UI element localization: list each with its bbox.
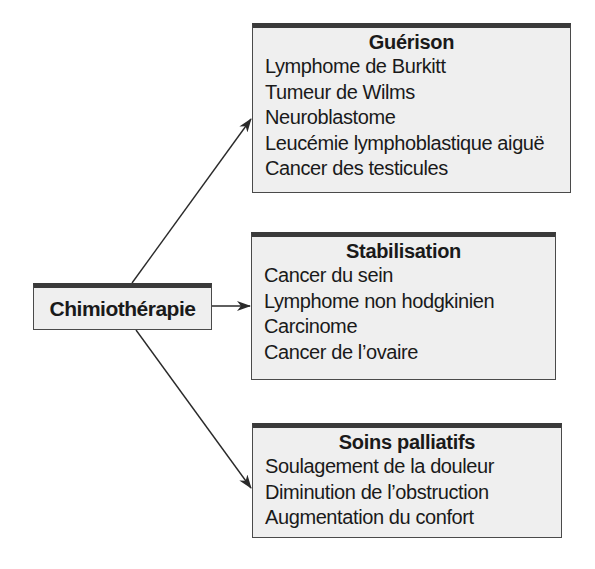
list-item: Lymphome de Burkitt (265, 54, 570, 80)
soins-palliatifs-list: Soulagement de la douleur Diminution de … (253, 454, 561, 531)
list-item: Lymphome non hodgkinien (264, 289, 555, 315)
chimiotherapie-box: Chimiothérapie (33, 283, 212, 330)
soins-palliatifs-box: Soins palliatifs Soulagement de la doule… (252, 423, 562, 538)
arrow-to-soins-palliatifs (136, 330, 251, 488)
guerison-list: Lymphome de Burkitt Tumeur de Wilms Neur… (253, 54, 570, 182)
list-item: Diminution de l’obstruction (265, 480, 561, 506)
list-item: Soulagement de la douleur (265, 454, 561, 480)
list-item: Cancer des testicules (265, 156, 570, 182)
guerison-title: Guérison (253, 30, 570, 54)
stabilisation-title: Stabilisation (252, 239, 555, 263)
arrow-to-guerison (132, 119, 251, 283)
guerison-box: Guérison Lymphome de Burkitt Tumeur de W… (252, 23, 571, 193)
list-item: Neuroblastome (265, 105, 570, 131)
list-item: Cancer du sein (264, 263, 555, 289)
soins-palliatifs-title: Soins palliatifs (253, 430, 561, 454)
list-item: Cancer de l’ovaire (264, 340, 555, 366)
list-item: Augmentation du confort (265, 505, 561, 531)
list-item: Tumeur de Wilms (265, 80, 570, 106)
chimiotherapie-label: Chimiothérapie (50, 297, 196, 321)
stabilisation-list: Cancer du sein Lymphome non hodgkinien C… (252, 263, 555, 365)
stabilisation-box: Stabilisation Cancer du sein Lymphome no… (251, 232, 556, 380)
list-item: Carcinome (264, 314, 555, 340)
list-item: Leucémie lymphoblastique aiguë (265, 131, 570, 157)
